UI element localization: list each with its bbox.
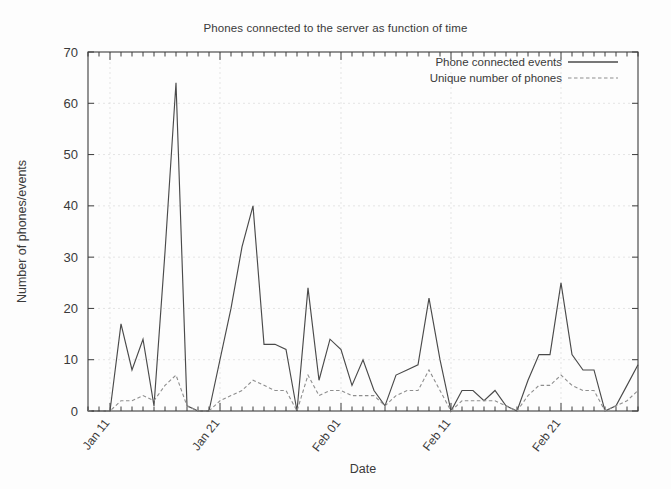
x-tick-label: Feb 01 xyxy=(309,416,343,454)
data-series-group xyxy=(88,83,638,411)
y-tick-label: 60 xyxy=(64,96,78,111)
x-axis-tick-labels: Jan 11Jan 21Feb 01Feb 11Feb 21 xyxy=(80,416,564,454)
x-tick-label: Feb 21 xyxy=(529,416,563,454)
chart-canvas: 010203040506070 Jan 11Jan 21Feb 01Feb 11… xyxy=(0,0,671,489)
y-tick-label: 20 xyxy=(64,301,78,316)
legend-label-1: Unique number of phones xyxy=(430,72,563,84)
y-tick-label: 70 xyxy=(64,45,78,60)
legend: Phone connected eventsUnique number of p… xyxy=(430,56,618,84)
y-tick-label: 0 xyxy=(71,404,78,419)
y-tick-label: 10 xyxy=(64,352,78,367)
chart-title: Phones connected to the server as functi… xyxy=(0,22,671,34)
y-tick-label: 40 xyxy=(64,198,78,213)
y-tick-label: 30 xyxy=(64,250,78,265)
x-axis-ticks xyxy=(88,52,638,411)
y-axis-tick-labels: 010203040506070 xyxy=(64,45,78,419)
x-axis-title: Date xyxy=(350,462,376,476)
y-axis-title: Number of phones/events xyxy=(15,160,29,303)
x-tick-label: Jan 21 xyxy=(189,416,222,453)
gridlines-group xyxy=(88,52,638,411)
x-tick-label: Jan 11 xyxy=(80,416,113,453)
plot-frame xyxy=(88,52,638,411)
legend-label-0: Phone connected events xyxy=(435,56,562,68)
x-tick-label: Feb 11 xyxy=(420,416,454,454)
chart-figure: Phones connected to the server as functi… xyxy=(0,0,671,489)
y-tick-label: 50 xyxy=(64,147,78,162)
series-line-1 xyxy=(88,370,638,411)
series-line-0 xyxy=(88,83,638,411)
y-axis-ticks xyxy=(88,52,638,411)
